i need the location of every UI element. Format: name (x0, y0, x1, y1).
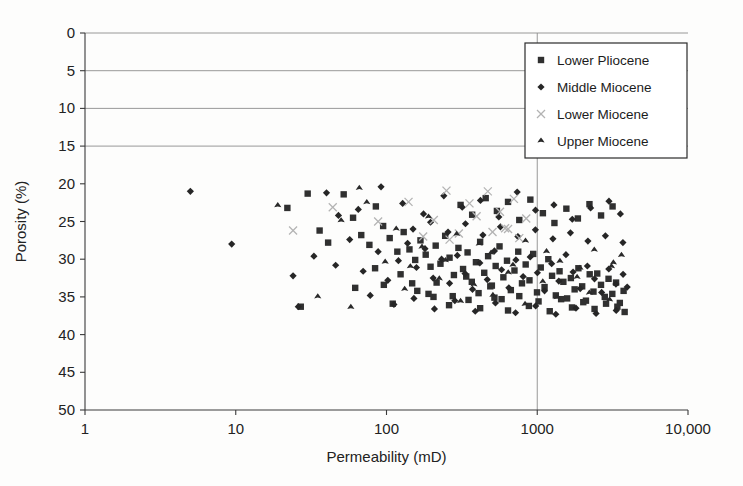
data-point (602, 232, 609, 239)
data-point (504, 258, 510, 264)
data-point (412, 257, 418, 263)
data-point (377, 183, 384, 190)
data-point (551, 220, 557, 226)
data-point (609, 203, 615, 209)
data-point (446, 302, 452, 308)
data-point (598, 282, 604, 288)
data-point (356, 185, 363, 190)
data-point (527, 196, 533, 202)
data-point (522, 261, 528, 267)
data-point (406, 246, 412, 252)
data-point (465, 199, 473, 207)
data-point (367, 292, 374, 299)
data-point (446, 280, 453, 287)
x-tick-label: 10,000 (665, 420, 711, 437)
x-tick-label: 10 (227, 420, 244, 437)
data-point (481, 270, 487, 276)
data-point (564, 295, 570, 301)
data-point (540, 210, 546, 216)
data-point (575, 215, 581, 221)
data-point (520, 273, 527, 280)
data-point (310, 253, 317, 260)
data-point (549, 273, 555, 279)
data-point (574, 274, 581, 279)
data-point (284, 205, 290, 211)
legend-label: Lower Pliocene (557, 53, 649, 68)
data-point (417, 237, 423, 243)
x-tick-label: 1000 (521, 420, 554, 437)
data-point (410, 295, 417, 302)
data-point (382, 259, 389, 264)
data-point (432, 242, 438, 248)
data-point (446, 236, 454, 244)
data-point (325, 239, 331, 245)
data-point (404, 240, 411, 247)
data-point (591, 247, 598, 252)
data-point (423, 251, 429, 257)
data-point (430, 294, 436, 300)
data-point (484, 276, 491, 283)
data-point (496, 243, 502, 249)
data-point (552, 311, 559, 318)
data-point (550, 201, 557, 208)
data-point (519, 280, 525, 286)
data-point (584, 262, 591, 269)
data-point (228, 241, 235, 248)
data-point (414, 288, 420, 294)
data-point (619, 239, 626, 246)
data-point (427, 264, 433, 270)
data-point (522, 214, 530, 222)
data-point (500, 274, 506, 280)
data-point (562, 251, 569, 258)
data-point (516, 217, 522, 223)
data-point (598, 212, 604, 218)
data-point (405, 198, 413, 206)
data-point (487, 283, 493, 289)
data-point (532, 226, 539, 233)
chart-legend[interactable]: Lower PlioceneMiddle MioceneLower Miocen… (525, 43, 687, 158)
data-point (618, 252, 625, 257)
data-point (401, 286, 408, 291)
data-point (407, 263, 414, 268)
porosity-permeability-scatter: 05101520253035404550110100100010,000Perm… (0, 0, 743, 486)
data-point (393, 225, 400, 230)
data-point (543, 248, 550, 253)
data-point (386, 235, 392, 241)
data-point (451, 272, 457, 278)
data-point (526, 277, 532, 283)
data-point (381, 282, 387, 288)
x-axis-title: Permeability (mD) (326, 448, 446, 465)
data-point (358, 232, 364, 238)
data-point (534, 289, 540, 295)
data-point (455, 245, 461, 251)
data-point (374, 218, 382, 226)
data-point (346, 236, 353, 243)
y-tick-label: 45 (58, 363, 75, 380)
data-point (498, 266, 505, 273)
data-point (567, 229, 574, 236)
data-point (584, 238, 591, 245)
data-point (465, 297, 471, 303)
data-point (556, 268, 562, 274)
data-point (289, 272, 296, 279)
data-point (514, 188, 521, 195)
data-point (609, 291, 615, 297)
data-point (522, 238, 529, 243)
data-point (420, 210, 427, 217)
data-point (372, 265, 378, 271)
data-point (395, 257, 402, 264)
data-point (547, 308, 553, 314)
data-point (469, 286, 476, 293)
data-point (556, 258, 563, 263)
data-point (409, 225, 416, 232)
data-point (397, 271, 403, 277)
data-point (516, 293, 522, 299)
data-point (479, 231, 486, 238)
data-point (304, 190, 310, 196)
data-point (498, 296, 504, 302)
x-tick-label: 1 (81, 420, 89, 437)
y-tick-label: 15 (58, 137, 75, 154)
data-point (568, 275, 574, 281)
data-point (409, 280, 415, 286)
data-point (511, 267, 517, 273)
